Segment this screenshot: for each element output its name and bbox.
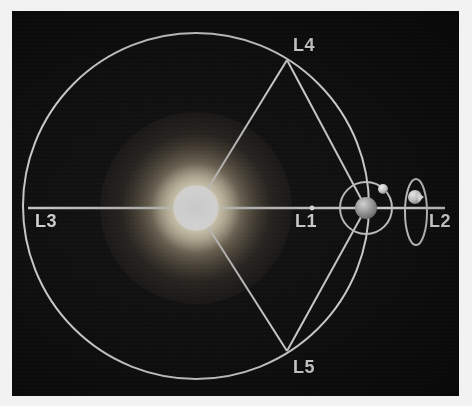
connector-lines	[28, 60, 445, 351]
label-L4: L4	[293, 35, 315, 56]
sun-core	[173, 185, 219, 231]
label-L1: L1	[295, 211, 317, 232]
sun-to-L5-line	[196, 208, 287, 351]
earth-body	[355, 197, 377, 219]
label-L5: L5	[293, 357, 315, 378]
sun-to-L4-line	[196, 60, 287, 208]
moon-body	[378, 184, 388, 194]
label-L3: L3	[35, 211, 57, 232]
label-L2: L2	[429, 211, 451, 232]
lagrange-diagram: L3 L1 L2 L4 L5	[12, 11, 459, 396]
L1-marker-dot	[310, 206, 315, 211]
figure-frame: L3 L1 L2 L4 L5	[0, 0, 472, 406]
halo-orbit-ellipse	[405, 179, 427, 245]
vector-layer	[12, 11, 459, 396]
